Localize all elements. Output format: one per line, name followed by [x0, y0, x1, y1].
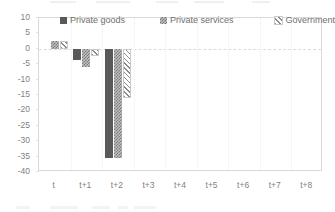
category-separator: [102, 18, 103, 170]
x-axis-tick-label: t+4: [174, 181, 186, 190]
y-axis-tick-label: -35: [0, 152, 30, 160]
bar-private-goods-tplus1: [73, 49, 81, 60]
category-separator: [71, 18, 72, 170]
bar-private-services-tplus1: [82, 49, 90, 67]
solid-square-icon: [60, 17, 67, 24]
bar-government-t: [60, 41, 68, 49]
legend-item-government: Government: [274, 15, 335, 25]
y-axis-tick-label: -15: [0, 90, 30, 98]
category-separator: [260, 18, 261, 170]
bar-government-tplus1: [91, 49, 99, 57]
top-clipped-artifact: [44, 0, 314, 4]
x-axis-tick-label: t+3: [142, 181, 154, 190]
hatched-square-icon: [274, 16, 283, 25]
y-axis-tick-label: -20: [0, 105, 30, 113]
y-axis-tick-label: -10: [0, 75, 30, 83]
x-axis-tick-label: t+8: [300, 181, 312, 190]
x-axis-tick-label: t+6: [237, 181, 249, 190]
y-axis-tick-label: 10: [0, 13, 30, 21]
y-axis-tick-mark: [36, 171, 39, 172]
x-axis-tick-label: t+2: [111, 181, 123, 190]
x-axis-tick-label: t+7: [269, 181, 281, 190]
category-separator: [228, 18, 229, 170]
y-axis-tick-label: -30: [0, 136, 30, 144]
chart-legend: Private goods Private services Governmen…: [60, 14, 335, 26]
y-axis-tick-label: 5: [0, 28, 30, 36]
category-separator: [165, 18, 166, 170]
legend-item-private-services: Private services: [160, 15, 234, 25]
checkered-square-icon: [160, 17, 167, 24]
y-axis-tick-label: -5: [0, 59, 30, 67]
legend-label-private-goods: Private goods: [70, 15, 125, 25]
bar-private-services-t: [51, 41, 59, 49]
category-separator: [291, 18, 292, 170]
bar-private-goods-tplus2: [105, 49, 113, 158]
bottom-clipped-caption-artifact: [6, 204, 206, 211]
y-axis-tick-label: -40: [0, 167, 30, 175]
y-axis-tick-label: -25: [0, 121, 30, 129]
category-separator: [134, 18, 135, 170]
plot-area: [38, 17, 322, 171]
x-axis-tick-label: t+5: [206, 181, 218, 190]
x-axis-tick-label: t+1: [79, 181, 91, 190]
y-axis-tick-label: 0: [0, 44, 30, 52]
legend-label-government: Government: [286, 15, 335, 25]
x-axis-tick-label: t: [53, 181, 55, 190]
bar-private-services-tplus2: [114, 49, 122, 158]
bar-government-tplus2: [123, 49, 131, 98]
category-separator: [197, 18, 198, 170]
legend-label-private-services: Private services: [170, 15, 234, 25]
legend-item-private-goods: Private goods: [60, 15, 125, 25]
